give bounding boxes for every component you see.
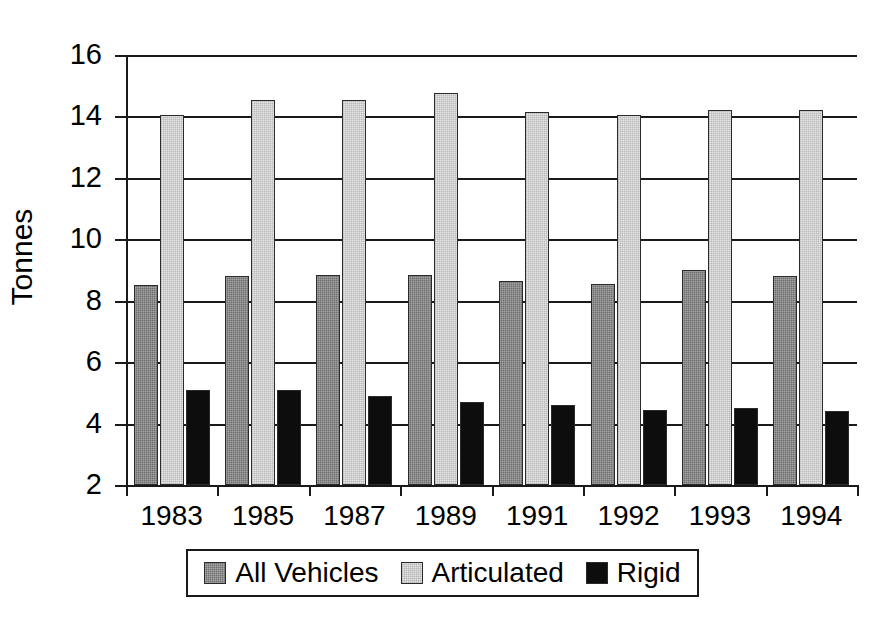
y-tick-label: 8 [56,286,102,315]
bar [682,270,706,485]
bar [525,112,549,485]
bar [499,281,523,485]
x-tick-mark [766,485,768,496]
x-tick-mark [492,485,494,496]
gridline [126,178,857,180]
bar [251,100,275,485]
x-tick-mark [126,485,128,496]
gridline [126,116,857,118]
plot-area: 246810121416 198319851987198919911992199… [126,55,857,485]
x-tick-mark [674,485,676,496]
gridline [126,55,857,57]
y-tick-mark [115,55,126,57]
legend-swatch-icon [204,562,226,584]
y-tick-label: 2 [56,470,102,499]
y-tick-label: 14 [56,101,102,130]
bar [277,390,301,485]
bar [186,390,210,485]
bar [617,115,641,485]
x-tick-mark [400,485,402,496]
x-tick-mark [217,485,219,496]
bar [825,411,849,485]
legend-label: Rigid [617,558,681,588]
legend-label: Articulated [432,558,564,588]
gridline [126,239,857,241]
y-tick-mark [115,485,126,487]
legend-item: All Vehicles [204,558,378,588]
y-tick-mark [115,424,126,426]
y-tick-mark [115,239,126,241]
y-tick-mark [115,301,126,303]
legend-swatch-icon [401,562,423,584]
bar [342,100,366,485]
chart-legend: All VehiclesArticulatedRigid [186,549,699,597]
bar [460,402,484,485]
bar [368,396,392,485]
legend-swatch-icon [586,562,608,584]
bar [591,284,615,485]
bar [408,275,432,485]
y-tick-mark [115,362,126,364]
legend-item: Rigid [586,558,681,588]
y-tick-label: 6 [56,347,102,376]
bar [160,115,184,485]
y-tick-label: 4 [56,409,102,438]
bar-chart: Tonnes 246810121416 19831985198719891991… [0,0,885,634]
x-tick-mark [309,485,311,496]
x-tick-label: 1994 [751,501,871,531]
y-tick-label: 12 [56,163,102,192]
y-tick-label: 10 [56,224,102,253]
bar [316,275,340,485]
y-axis-title: Tonnes [5,177,39,337]
y-tick-mark [115,178,126,180]
bar [773,276,797,485]
y-tick-mark [115,116,126,118]
x-tick-mark [857,485,859,496]
x-tick-mark [583,485,585,496]
legend-label: All Vehicles [235,558,378,588]
bar [708,110,732,485]
bar [134,285,158,485]
bar [799,110,823,485]
bar [643,410,667,485]
bar [434,93,458,485]
legend-item: Articulated [401,558,564,588]
y-tick-label: 16 [56,40,102,69]
bar [551,405,575,485]
bar [734,408,758,485]
bar [225,276,249,485]
